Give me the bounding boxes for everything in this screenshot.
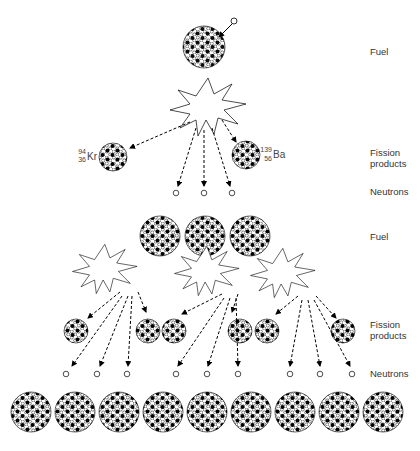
kr-atomic-number: 36 — [76, 156, 86, 164]
fission-burst — [170, 78, 246, 136]
ba-mass-number: 139 — [258, 146, 272, 154]
neutron-icon — [231, 18, 237, 24]
fuel-nucleus — [183, 26, 225, 68]
kr-symbol: Kr — [87, 151, 97, 162]
label-fission-products-2: Fission products — [370, 319, 406, 341]
ba-symbol: Ba — [273, 149, 285, 160]
label-fuel: Fuel — [370, 46, 388, 57]
label-fission-products: Fission products — [370, 147, 406, 169]
neutrons-row-1 — [173, 190, 235, 196]
kr-nucleus — [99, 143, 127, 171]
label-neutrons: Neutrons — [370, 186, 409, 197]
ba-nucleus — [232, 141, 260, 169]
label-fuel-2: Fuel — [370, 231, 388, 242]
fuel-row-3 — [11, 392, 403, 432]
fission-products-row-2 — [64, 319, 355, 343]
kr-mass-number: 94 — [76, 148, 86, 156]
fission-diagram — [0, 0, 420, 451]
neutrons-row-2 — [63, 371, 355, 377]
ba-atomic-number: 56 — [258, 155, 272, 163]
label-neutrons-2: Neutrons — [370, 368, 409, 379]
